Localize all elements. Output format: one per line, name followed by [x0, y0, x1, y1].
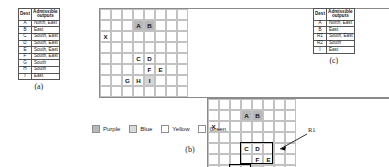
grid-cell-empty — [219, 154, 230, 165]
grid-cell-empty — [100, 64, 111, 75]
grid-cell-f: F — [252, 154, 263, 165]
grid-cell-empty — [166, 64, 177, 75]
cell-dest: I — [314, 47, 327, 54]
grid-cell-empty — [177, 86, 188, 97]
grid-cell-empty — [219, 110, 230, 121]
grid-cell-empty — [166, 31, 177, 42]
grid-cell-empty — [166, 75, 177, 86]
grid-cell-empty — [144, 31, 155, 42]
grid-cell-empty — [155, 86, 166, 97]
grid-cell-empty — [155, 53, 166, 64]
grid-cell-empty — [100, 20, 111, 31]
grid-cell-empty — [274, 165, 285, 167]
figure-a: Dest Admissible outputs ANorth, East BEa… — [18, 8, 60, 91]
grid-cell-f: F — [144, 64, 155, 75]
grid-cell-i: I — [252, 165, 263, 167]
grid-cell-empty — [219, 99, 230, 110]
grid-cell-empty — [155, 9, 166, 20]
grid-cell-empty — [263, 165, 274, 167]
grid-cell-empty — [230, 132, 241, 143]
grid-cell-a: A — [133, 20, 144, 31]
cell-outputs: East — [326, 47, 354, 54]
grid-cell-empty — [155, 75, 166, 86]
grid-cell-g: G — [230, 165, 241, 167]
table-a-dest-header: Dest — [19, 9, 32, 21]
table-row: FSouth, East — [19, 53, 60, 60]
grid-cell-empty — [122, 20, 133, 31]
grid-cell-empty — [263, 99, 274, 110]
grid-cell-empty — [111, 86, 122, 97]
legend-swatch-yellow — [161, 125, 169, 133]
grid-cell-empty — [111, 75, 122, 86]
grid-cell-empty — [230, 121, 241, 132]
grid-cell-h: H — [133, 75, 144, 86]
grid-cell-empty — [263, 143, 274, 154]
grid-cell-empty — [241, 154, 252, 165]
cell-outputs: South — [326, 40, 354, 47]
grid-cell-i: I — [144, 75, 155, 86]
grid-cell-empty — [208, 132, 219, 143]
grid-cell-empty — [133, 9, 144, 20]
grid-cell-empty — [274, 99, 285, 110]
legend-swatch-blue — [129, 125, 137, 133]
grid-cell-b: B — [252, 110, 263, 121]
grid-cell-empty — [208, 165, 219, 167]
table-a-body: ANorth, East BEast CSouth, East DSouth, … — [19, 20, 60, 79]
legend-swatch-purple — [92, 125, 100, 133]
grid-cell-empty — [219, 165, 230, 167]
grid-cell-empty — [274, 154, 285, 165]
cell-dest: R2 — [314, 40, 327, 47]
grid-cell-empty — [285, 110, 296, 121]
grid-cell-empty — [241, 121, 252, 132]
grid-cell-h: H — [241, 165, 252, 167]
grid-cell-empty — [111, 20, 122, 31]
grid-cell-empty — [263, 110, 274, 121]
grid-cell-empty — [133, 64, 144, 75]
table-c-dest-header: Dest — [314, 9, 327, 21]
grid-cell-empty — [177, 42, 188, 53]
grid-cell-empty — [166, 86, 177, 97]
cell-dest: D — [19, 40, 32, 47]
grid-cell-empty — [285, 154, 296, 165]
grid-cell-x: X — [100, 31, 111, 42]
grid-cell-empty — [166, 9, 177, 20]
caption-b: (b) — [150, 145, 230, 154]
grid-cell-empty — [100, 42, 111, 53]
grid-cell-empty — [274, 121, 285, 132]
grid-cell-empty — [111, 42, 122, 53]
cell-dest: A — [314, 20, 327, 27]
grid-cell-empty — [230, 154, 241, 165]
legend-label: Green — [209, 126, 226, 132]
grid-cell-empty — [111, 31, 122, 42]
grid-cell-empty — [100, 9, 111, 20]
legend-item-blue: Blue — [129, 125, 152, 133]
cell-outputs: North, East — [326, 20, 354, 27]
grid-cell-empty — [133, 86, 144, 97]
table-row: IEast — [19, 73, 60, 80]
grid-cell-empty — [252, 99, 263, 110]
grid-cell-empty — [230, 99, 241, 110]
grid-cell-empty — [177, 31, 188, 42]
grid-cell-empty — [144, 42, 155, 53]
grid-cell-empty — [100, 53, 111, 64]
grid-cell-empty — [177, 20, 188, 31]
grid-cell-empty — [100, 75, 111, 86]
grid-cell-empty — [122, 53, 133, 64]
grid-cell-a: A — [241, 110, 252, 121]
grid-cell-empty — [122, 64, 133, 75]
grid-cell-e: E — [263, 154, 274, 165]
table-c-outputs-header-line2: outputs — [332, 13, 349, 18]
cell-dest: A — [19, 20, 32, 27]
grid-cell-empty — [263, 132, 274, 143]
table-row: DSouth, East — [19, 40, 60, 47]
grid-cell-empty — [100, 86, 111, 97]
cell-outputs: East — [31, 73, 59, 80]
grid-cell-empty — [111, 64, 122, 75]
grid-cell-c: C — [241, 143, 252, 154]
grid-cell-empty — [166, 53, 177, 64]
grid-cell-empty — [166, 20, 177, 31]
grid-cell-empty — [241, 99, 252, 110]
legend-item-purple: Purple — [92, 125, 120, 133]
figure-c: Dest Admissible outputs ANorth, East BEa… — [313, 8, 355, 65]
grid-cell-empty — [177, 75, 188, 86]
